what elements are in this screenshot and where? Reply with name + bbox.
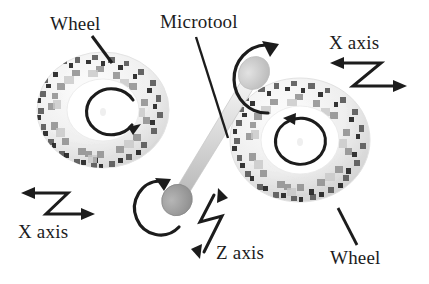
x-axis-indicator-top-right [337,63,400,86]
label-microtool: Microtool [160,12,238,31]
figure-microtool-grinding: Wheel Microtool X axis X axis Z axis Whe… [0,0,429,284]
z-axis-arrowhead-top [217,188,228,203]
label-x-axis-top-right: X axis [329,33,379,52]
x-axis-bl-arrowhead-left [21,187,35,199]
label-wheel-bottom-right: Wheel [330,248,381,267]
x-axis-tr-arrowhead-left [330,57,344,69]
leader-line-wheel-bottom-right [338,208,357,245]
label-x-axis-bottom-left: X axis [18,222,68,241]
left-wheel [36,52,169,169]
label-z-axis: Z axis [216,243,264,262]
right-wheel [230,78,370,202]
label-wheel-top-left: Wheel [50,14,101,33]
x-axis-indicator-bottom-left [28,193,88,214]
z-axis-arrowhead-bottom [191,244,202,259]
leader-line-microtool [196,37,228,138]
microtool-upper-arrowhead [262,41,279,57]
x-axis-bl-arrowhead-right [81,208,95,220]
x-axis-tr-arrowhead-right [393,80,407,92]
